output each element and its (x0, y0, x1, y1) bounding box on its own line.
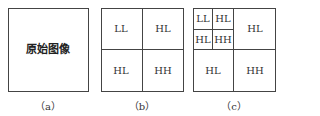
panel-c-vertical-divider (233, 8, 234, 92)
panel-c-sub-horizontal-divider (193, 29, 233, 30)
panel-c-sub-hh-label: HH (214, 35, 231, 45)
panel-c-horizontal-divider (193, 49, 276, 50)
caption-c: （c） (221, 98, 247, 113)
panel-b-hl-bottom-label: HL (113, 66, 128, 76)
panel-b-ll-label: LL (114, 24, 127, 34)
original-image-label: 原始图像 (26, 44, 70, 55)
panel-b-hh-label: HH (154, 66, 171, 76)
caption-a: （a） (35, 98, 61, 113)
panel-c-hl-top-right-label: HL (247, 24, 262, 34)
panel-b-horizontal-divider (101, 49, 184, 50)
panel-c-hh-label: HH (246, 66, 263, 76)
caption-b: （b） (129, 98, 155, 113)
panel-c-hl-bottom-left-label: HL (205, 66, 220, 76)
panel-c-sub-ll-label: LL (196, 14, 209, 24)
panel-c-sub-hl-top-label: HL (215, 14, 230, 24)
panel-b-hl-top-label: HL (155, 24, 170, 34)
panel-c-sub-hl-bottom-label: HL (195, 35, 210, 45)
panel-b-vertical-divider (142, 8, 143, 92)
